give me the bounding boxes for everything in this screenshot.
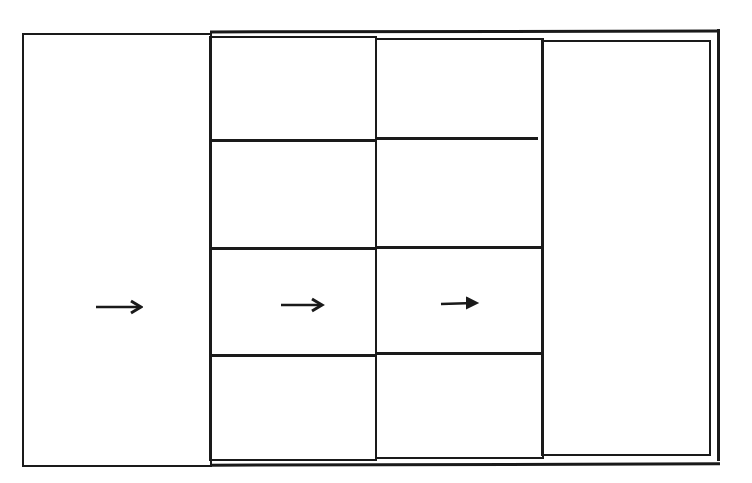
column-2-row-1[interactable] [212, 39, 374, 139]
column-3-row-2[interactable] [378, 140, 541, 246]
outer-frame-bottom [210, 462, 720, 466]
column-3-row-4[interactable] [378, 355, 541, 456]
column-1-panel[interactable] [22, 33, 212, 467]
column-3-row-1[interactable] [378, 41, 541, 137]
column-2-row-2[interactable] [212, 142, 374, 247]
right-arrow-icon: → [280, 297, 328, 313]
column-2-row-4[interactable] [212, 357, 374, 459]
outer-frame-right [717, 29, 720, 461]
right-arrow-icon: → [440, 296, 488, 312]
column-4-panel[interactable] [541, 40, 711, 456]
outer-frame-top [210, 30, 719, 33]
right-arrow-icon: → [95, 299, 143, 315]
